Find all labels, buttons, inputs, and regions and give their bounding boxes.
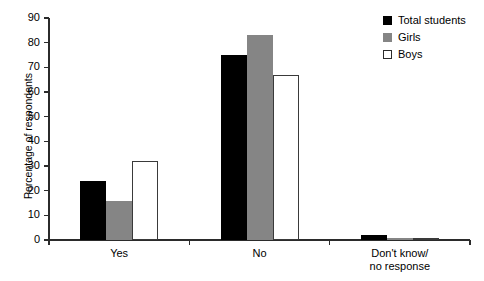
y-axis-tick-label: 20 <box>0 185 40 196</box>
x-axis-tick <box>469 240 470 245</box>
x-axis-tick <box>189 240 190 245</box>
bar-total-0 <box>80 181 106 240</box>
legend-label-girls: Girls <box>398 31 421 43</box>
bar-girls-2 <box>387 238 413 240</box>
bar-girls-1 <box>247 35 273 240</box>
legend-swatch-total-students-icon <box>383 16 392 25</box>
y-axis-tick-label: 60 <box>0 86 40 97</box>
legend-label-total-students: Total students <box>398 14 466 26</box>
legend-item-boys: Boys <box>383 46 466 62</box>
bar-total-1 <box>221 55 247 240</box>
x-axis-tick <box>48 240 49 245</box>
legend-label-boys: Boys <box>398 48 422 60</box>
y-axis-tick-label: 50 <box>0 111 40 122</box>
y-axis-tick-label: 80 <box>0 37 40 48</box>
x-axis-label-0: Yes <box>49 247 189 260</box>
bar-boys-2 <box>413 238 439 240</box>
bar-boys-1 <box>273 75 299 240</box>
x-axis-tick <box>329 240 330 245</box>
y-axis-tick-label: 0 <box>0 234 40 245</box>
x-axis-label-line2: no response <box>330 260 470 273</box>
bar-total-2 <box>361 235 387 240</box>
x-axis-label-1: No <box>190 247 330 260</box>
y-axis-tick-label: 40 <box>0 135 40 146</box>
bar-girls-0 <box>106 201 132 240</box>
x-axis-label-line1: No <box>190 247 330 260</box>
y-axis-tick-label: 30 <box>0 160 40 171</box>
x-axis-label-line1: Don't know/ <box>330 247 470 260</box>
x-axis-label-line1: Yes <box>49 247 189 260</box>
y-axis-tick-label: 90 <box>0 12 40 23</box>
y-axis-tick-label: 70 <box>0 61 40 72</box>
legend: Total students Girls Boys <box>383 12 466 63</box>
legend-swatch-boys-icon <box>383 50 392 59</box>
legend-swatch-girls-icon <box>383 33 392 42</box>
bar-chart: Percentage of respondents 01020304050607… <box>0 0 484 281</box>
legend-item-girls: Girls <box>383 29 466 45</box>
bar-boys-0 <box>132 161 158 240</box>
legend-item-total-students: Total students <box>383 12 466 28</box>
y-axis-tick-label: 10 <box>0 209 40 220</box>
x-axis-label-2: Don't know/no response <box>330 247 470 273</box>
